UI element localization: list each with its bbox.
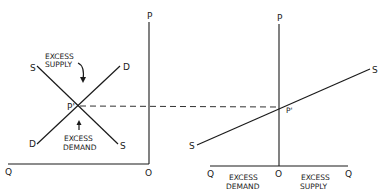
right-panel: P Q O Q S S P' EXCESS DEMAND EXCESS SUPP… (189, 13, 378, 191)
excess-supply-arrowhead-icon (80, 77, 86, 83)
excess-demand-label-line2: DEMAND (63, 143, 97, 152)
left-equilibrium-label: P' (67, 102, 75, 112)
excess-demand-region-line2: DEMAND (226, 182, 260, 191)
right-equilibrium-label: P' (286, 106, 293, 115)
excess-supply-label-line2: SUPPLY (45, 60, 72, 69)
right-quantity-left-label: Q (207, 169, 214, 179)
excess-demand-arrowhead-icon (77, 120, 82, 125)
left-price-axis-label: P (147, 11, 153, 21)
demand-curve-start-label: D (29, 139, 36, 149)
right-origin-label: O (275, 169, 282, 179)
right-price-axis-label: P (277, 13, 283, 23)
left-panel: P Q O S S D D P' EXCESS SUPPLY EXCESS DE… (5, 11, 153, 178)
excess-supply-curve-end-label: S (372, 65, 378, 75)
excess-supply-curve-start-label: S (189, 141, 195, 151)
excess-supply-region-line2: SUPPLY (300, 182, 327, 191)
excess-supply-region-line1: EXCESS (301, 173, 330, 182)
supply-demand-diagram: P Q O S S D D P' EXCESS SUPPLY EXCESS DE… (0, 0, 383, 196)
supply-curve-start-label: S (30, 63, 36, 73)
supply-curve-end-label: S (120, 141, 126, 151)
left-origin-label: O (145, 168, 152, 178)
left-quantity-axis-label: Q (5, 167, 12, 177)
excess-demand-label-line1: EXCESS (64, 134, 93, 143)
demand-curve-end-label: D (123, 62, 130, 72)
excess-demand-region-line1: EXCESS (229, 173, 258, 182)
equilibrium-price-connector (80, 106, 279, 107)
right-quantity-right-label: Q (345, 169, 352, 179)
